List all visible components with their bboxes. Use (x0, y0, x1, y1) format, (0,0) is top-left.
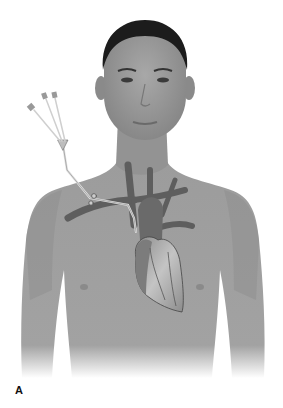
medical-illustration: A (0, 0, 283, 408)
panel-label: A (15, 384, 23, 396)
head (95, 20, 195, 140)
aorta (138, 197, 163, 240)
eye-right (157, 78, 169, 83)
eye-left (121, 78, 133, 83)
nipple-right (196, 284, 204, 290)
nipple-left (80, 284, 88, 290)
